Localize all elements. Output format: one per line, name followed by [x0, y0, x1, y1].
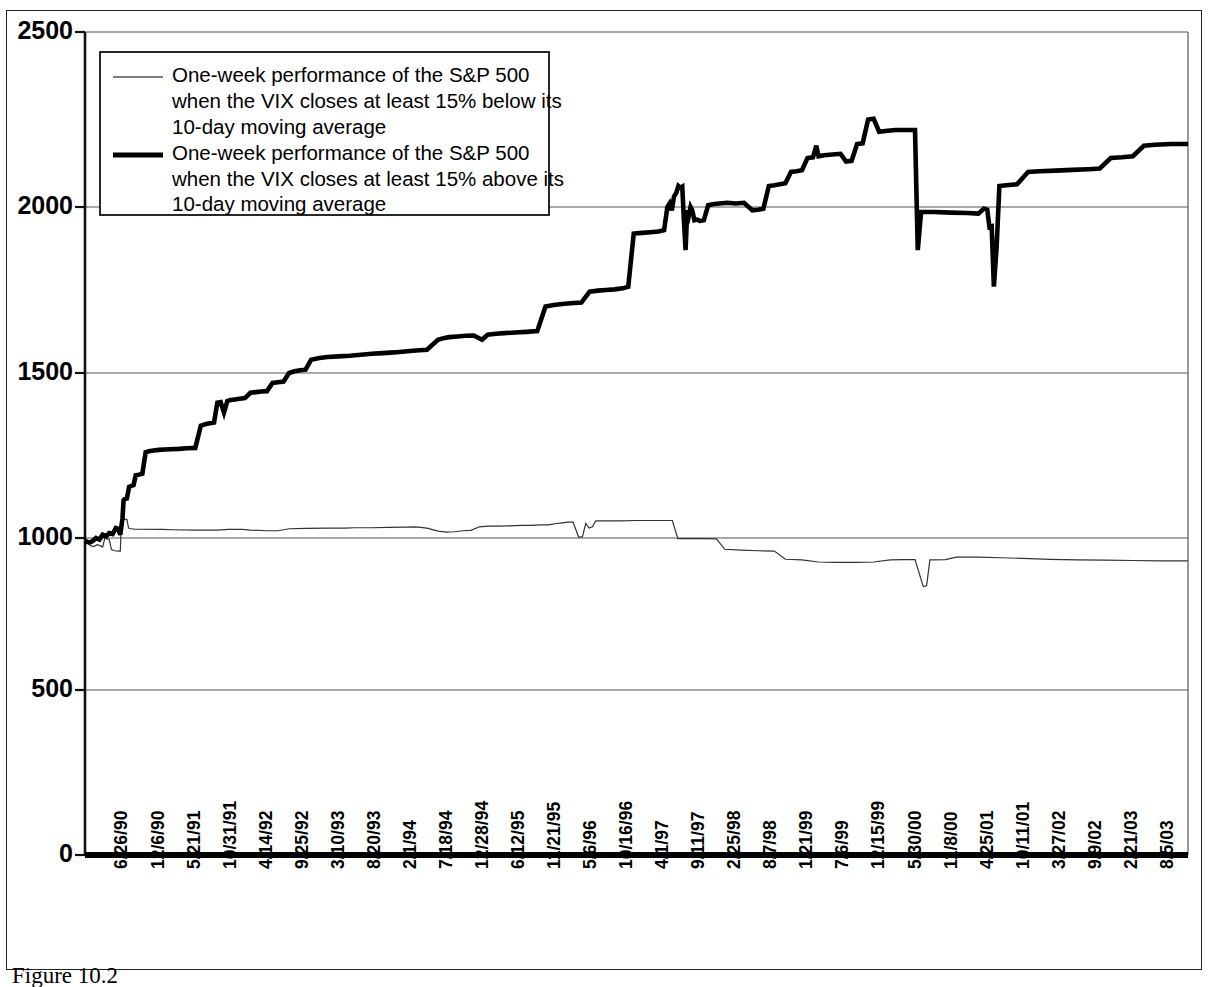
- x-tick-label: 12/6/90: [148, 810, 168, 869]
- x-tick-label: 9/25/92: [292, 810, 312, 869]
- x-tick-label: 8/20/93: [364, 810, 384, 869]
- x-tick-label: 12/15/99: [868, 801, 888, 869]
- x-axis-tick-labels: 6/26/9012/6/905/21/9110/31/914/14/929/25…: [111, 801, 1176, 869]
- x-tick-label: 8/5/03: [1157, 820, 1177, 869]
- x-tick-label: 9/9/02: [1085, 820, 1105, 869]
- figure-caption: Figure 10.2: [12, 963, 118, 987]
- y-tick-label: 500: [31, 674, 73, 702]
- y-tick-label: 1000: [17, 522, 73, 550]
- x-tick-label: 9/11/97: [688, 812, 708, 869]
- x-tick-label: 10/11/01: [1013, 802, 1033, 869]
- x-tick-label: 11/21/95: [544, 802, 564, 869]
- x-tick-label: 10/31/91: [220, 801, 240, 869]
- x-tick-label: 1/21/99: [796, 810, 816, 869]
- legend-entry-0-line-0: One-week performance of the S&P 500: [172, 63, 529, 86]
- y-tick-label: 1500: [17, 357, 73, 385]
- y-tick-label: 0: [59, 839, 73, 867]
- x-tick-label: 4/1/97: [652, 820, 672, 869]
- legend: One-week performance of the S&P 500 when…: [100, 52, 564, 215]
- legend-entry-0-line-2: 10-day moving average: [172, 115, 386, 138]
- x-tick-label: 5/21/91: [184, 810, 204, 869]
- x-tick-label: 11/8/00: [941, 811, 961, 869]
- legend-entry-1-line-1: when the VIX closes at least 15% above i…: [171, 167, 564, 190]
- x-tick-label: 7/6/99: [832, 820, 852, 869]
- x-tick-label: 5/6/96: [580, 820, 600, 869]
- y-tick-label: 2500: [17, 16, 73, 44]
- x-tick-label: 2/1/94: [400, 820, 420, 869]
- x-tick-label: 2/21/03: [1121, 810, 1141, 869]
- x-tick-label: 10/16/96: [616, 801, 636, 869]
- figure-container: 2500 2000 1500 1000 500 0 6/26/9012/6/90…: [0, 0, 1212, 987]
- x-tick-label: 5/30/00: [905, 810, 925, 869]
- x-tick-label: 4/25/01: [977, 810, 997, 869]
- x-tick-label: 12/28/94: [472, 801, 492, 869]
- x-tick-label: 8/7/98: [760, 820, 780, 869]
- y-tick-marks: [75, 32, 85, 855]
- chart-canvas: 2500 2000 1500 1000 500 0 6/26/9012/6/90…: [0, 0, 1212, 987]
- y-axis-tick-labels: 2500 2000 1500 1000 500 0: [17, 16, 73, 867]
- x-tick-label: 3/27/02: [1049, 810, 1069, 869]
- legend-entry-1-line-0: One-week performance of the S&P 500: [172, 141, 529, 164]
- x-tick-label: 7/18/94: [436, 810, 456, 869]
- x-tick-label: 2/25/98: [724, 810, 744, 869]
- y-tick-label: 2000: [17, 191, 73, 219]
- x-tick-label: 4/14/92: [256, 810, 276, 869]
- x-tick-label: 3/10/93: [328, 810, 348, 869]
- legend-entry-0-line-1: when the VIX closes at least 15% below i…: [171, 89, 562, 112]
- legend-entry-1-line-2: 10-day moving average: [172, 192, 386, 215]
- x-tick-label: 6/26/90: [111, 810, 131, 869]
- x-tick-label: 6/12/95: [508, 810, 528, 869]
- series-line-vix-below: [85, 519, 1188, 586]
